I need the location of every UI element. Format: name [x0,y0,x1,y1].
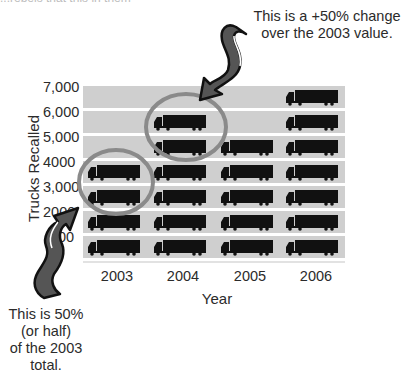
highlight-circle-2004 [146,94,226,160]
annotation-overlay [0,0,411,389]
x-axis-label: Year [187,290,247,307]
curved-arrow-up-icon [35,208,78,298]
x-tick: 2005 [220,268,280,284]
curved-arrow-down-icon [200,25,246,100]
x-tick: 2004 [153,268,213,284]
x-tick: 2006 [286,268,346,284]
x-tick: 2003 [87,268,147,284]
highlight-circle-2003 [79,150,153,214]
